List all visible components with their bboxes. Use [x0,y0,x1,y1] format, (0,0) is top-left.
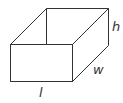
length-label: l [39,85,43,100]
width-label: w [93,62,104,77]
front-face [11,45,73,82]
left-top-diagonal [11,9,47,45]
height-label: h [112,19,120,34]
right-top-diagonal [73,9,109,45]
box-diagram: h w l [0,0,123,103]
